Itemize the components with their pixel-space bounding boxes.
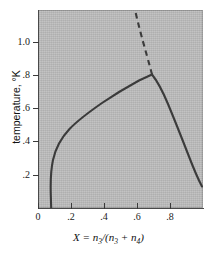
x-axis-label: X = n3/(n3 + n4) xyxy=(0,231,217,246)
x-tick-0.6 xyxy=(137,203,138,209)
lambda-and-left-branch-path xyxy=(51,75,152,209)
x-tick-label-0: 0 xyxy=(26,211,50,222)
right-branch-path xyxy=(152,75,202,187)
x-tick-label-0.6: .6 xyxy=(125,211,149,222)
x-tick-0.4 xyxy=(104,203,105,209)
y-tick-0.2 xyxy=(33,175,39,176)
x-tick-label-0.8: .8 xyxy=(158,211,182,222)
x-tick-label-0.2: .2 xyxy=(59,211,83,222)
y-tick-0.8 xyxy=(33,75,39,76)
phase-boundary-curves xyxy=(38,10,203,208)
phase-diagram-figure: 0 .2 .4 .6 .8 1.0 .8 .6 .4 .2 X = n3/(n3… xyxy=(0,0,217,253)
x-tick-label-0.4: .4 xyxy=(92,211,116,222)
y-tick-1.0 xyxy=(33,42,39,43)
y-axis-label: temperature, °K xyxy=(10,32,22,182)
y-tick-0.6 xyxy=(33,108,39,109)
x-axis-label-slash: /( xyxy=(102,231,109,243)
y-tick-0.4 xyxy=(33,141,39,142)
x-axis-label-variable: X xyxy=(73,231,80,243)
x-tick-0.2 xyxy=(71,203,72,209)
x-tick-0.8 xyxy=(170,203,171,209)
x-tick-0 xyxy=(38,203,39,209)
plot-area xyxy=(38,10,203,208)
y-axis-line xyxy=(38,10,39,209)
x-axis-label-plus: + xyxy=(118,231,131,243)
x-axis-label-close: ) xyxy=(140,231,144,243)
x-axis-line xyxy=(38,208,204,209)
dashed-lambda-extension-path xyxy=(135,10,152,75)
x-axis-label-equals: = xyxy=(80,231,93,243)
